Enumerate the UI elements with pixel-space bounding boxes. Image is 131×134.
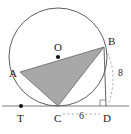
label-point-B: B xyxy=(108,35,115,47)
label-length-CD: 6 xyxy=(79,110,84,121)
label-point-D: D xyxy=(103,112,111,124)
label-length-BD: 8 xyxy=(118,67,123,78)
label-point-A: A xyxy=(9,67,17,79)
label-point-T: T xyxy=(17,112,24,124)
point-O-dot xyxy=(56,55,60,59)
right-angle-marker-at-D xyxy=(100,100,106,106)
label-center-O: O xyxy=(54,41,62,53)
segment-BD xyxy=(104,47,106,106)
label-point-C: C xyxy=(54,112,61,124)
point-T-dot xyxy=(19,104,23,108)
geometry-diagram: A B C D O T 8 6 xyxy=(0,0,131,134)
inscribed-triangle-ABC xyxy=(20,47,104,106)
